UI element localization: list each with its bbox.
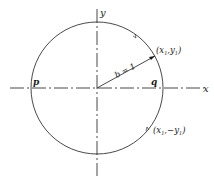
point-q-label: q bbox=[151, 77, 157, 87]
upper-point-label: (x1,y1) bbox=[156, 45, 181, 56]
point-p-label: p bbox=[33, 77, 40, 87]
radius-label: b = 1 bbox=[113, 62, 137, 80]
x-axis-label: x bbox=[203, 83, 209, 94]
lower-point-label: (x1,−y1) bbox=[153, 125, 185, 136]
unit-circle-diagram: b = 1 y x p q (x1,y1) (x1,−y1) bbox=[0, 0, 214, 181]
y-axis-label: y bbox=[99, 7, 106, 18]
arrowhead-icon bbox=[149, 56, 155, 60]
